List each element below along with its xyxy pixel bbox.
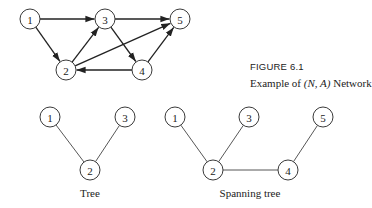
svg-text:2: 2 bbox=[210, 165, 216, 177]
spanning-tree-diagram: 13524 bbox=[165, 107, 333, 180]
network-node-2: 2 bbox=[56, 60, 76, 80]
svg-text:5: 5 bbox=[177, 14, 183, 26]
spanning-node-2: 2 bbox=[203, 160, 223, 180]
network-edge-4-5 bbox=[148, 27, 174, 62]
spanning-node-4: 4 bbox=[278, 160, 298, 180]
tree-diagram: 132 bbox=[40, 107, 135, 180]
network-edge-3-4 bbox=[111, 27, 136, 61]
tree-edge-1-2 bbox=[56, 125, 84, 162]
caption-math: (N, A) bbox=[304, 77, 331, 89]
caption-prefix: Example of bbox=[250, 77, 304, 89]
network-diagram: 12345 bbox=[20, 9, 190, 80]
svg-text:4: 4 bbox=[285, 165, 291, 177]
svg-text:2: 2 bbox=[87, 165, 93, 177]
svg-text:5: 5 bbox=[320, 112, 326, 124]
tree-node-1: 1 bbox=[40, 107, 60, 127]
spanning-edge-3-2 bbox=[219, 125, 244, 161]
tree-label: Tree bbox=[80, 187, 100, 199]
svg-text:3: 3 bbox=[102, 14, 108, 26]
svg-text:3: 3 bbox=[122, 112, 128, 124]
tree-node-3: 3 bbox=[115, 107, 135, 127]
spanning-edge-1-2 bbox=[181, 125, 207, 162]
svg-text:2: 2 bbox=[63, 65, 69, 77]
network-node-3: 3 bbox=[95, 9, 115, 29]
spanning-node-5: 5 bbox=[313, 107, 333, 127]
svg-text:3: 3 bbox=[246, 112, 252, 124]
svg-text:1: 1 bbox=[27, 14, 33, 26]
spanning-node-1: 1 bbox=[165, 107, 185, 127]
network-node-1: 1 bbox=[20, 9, 40, 29]
spanning-edge-5-4 bbox=[294, 125, 318, 161]
caption-suffix: Network bbox=[330, 77, 371, 89]
tree-node-2: 2 bbox=[80, 160, 100, 180]
svg-text:1: 1 bbox=[47, 112, 53, 124]
network-node-4: 4 bbox=[132, 60, 152, 80]
spanning-tree-label: Spanning tree bbox=[220, 187, 281, 199]
network-node-5: 5 bbox=[170, 9, 190, 29]
figure-caption: Example of (N, A) Network bbox=[250, 77, 372, 89]
tree-edge-3-2 bbox=[96, 125, 120, 161]
figure-number: FIGURE 6.1 bbox=[250, 61, 304, 72]
svg-text:4: 4 bbox=[139, 65, 145, 77]
spanning-node-3: 3 bbox=[239, 107, 259, 127]
svg-text:1: 1 bbox=[172, 112, 178, 124]
network-edge-1-2 bbox=[36, 27, 60, 61]
